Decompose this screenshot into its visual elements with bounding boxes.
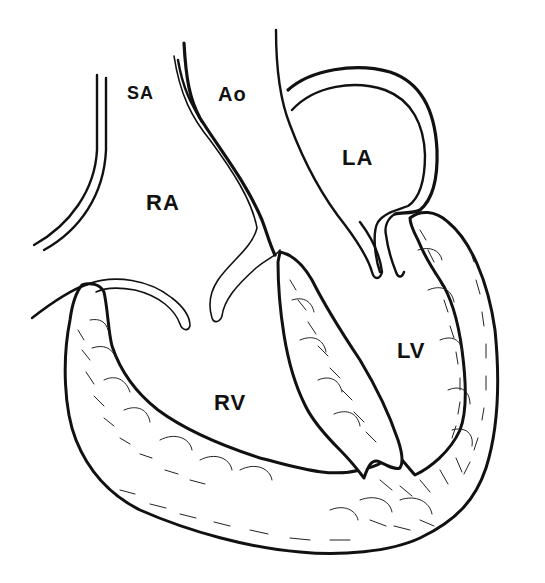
label-la: LA [342,147,373,169]
label-ra: RA [146,192,180,214]
label-lv: LV [397,340,425,362]
mitral-leaflet [385,214,404,277]
label-rv: RV [214,392,246,414]
interventricular-septum [278,252,402,478]
label-ao: Ao [218,84,247,104]
tricuspid-leaflet [32,279,190,329]
sa-vessel-walls [34,75,106,250]
label-sa: SA [127,84,154,102]
heart-diagram [0,0,545,583]
